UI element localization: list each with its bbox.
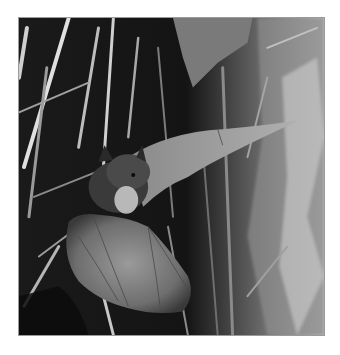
bat-chest	[114, 186, 138, 214]
bat-photo-svg	[19, 18, 324, 335]
bat-photo	[18, 17, 325, 336]
bat-eye	[131, 173, 135, 177]
